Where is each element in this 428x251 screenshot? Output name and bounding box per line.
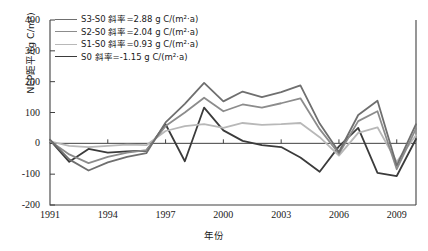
y-tick-label-text: 0	[8, 138, 40, 148]
x-tick-label: 1997	[156, 210, 176, 220]
legend-line-swatch	[55, 44, 77, 45]
y-tick-label: 300	[8, 46, 40, 56]
y-tick-label: -200	[8, 200, 40, 210]
y-tick-label: 200	[8, 77, 40, 87]
y-tick-label: 100	[8, 108, 40, 118]
x-axis-title: 年份	[0, 228, 428, 242]
y-tick-label-text: 400	[8, 15, 40, 25]
y-tick-label-text: 100	[8, 108, 40, 118]
y-tick-label: 400	[8, 15, 40, 25]
nep-anomaly-line-chart: NEP距平/(g C/m²) 年份 4003002001000-100-200 …	[0, 0, 428, 251]
y-tick-label: -100	[8, 169, 40, 179]
legend-item-label: S1-S0 斜率=0.93 g C/(m²·a)	[81, 38, 198, 51]
legend-item-label: S0 斜率=-1.15 g C/(m²·a)	[81, 51, 187, 64]
series-line-s0	[50, 108, 416, 176]
y-tick-label: 0	[8, 138, 40, 148]
x-axis-title-text: 年份	[204, 230, 224, 241]
x-tick-label: 1994	[98, 210, 118, 220]
y-tick-label-text: 200	[8, 77, 40, 87]
x-tick-label: 2003	[271, 210, 291, 220]
x-tick-label: 2000	[213, 210, 233, 220]
legend-item-s1-s0[interactable]: S1-S0 斜率=0.93 g C/(m²·a)	[55, 38, 198, 51]
x-tick-label: 2009	[387, 210, 407, 220]
y-tick-label-text: -200	[8, 200, 40, 210]
legend-item-label: S2-S0 斜率=2.04 g C/(m²·a)	[81, 26, 198, 39]
legend-item-s2-s0[interactable]: S2-S0 斜率=2.04 g C/(m²·a)	[55, 26, 198, 39]
x-tick-label: 1991	[40, 210, 60, 220]
legend-line-swatch	[55, 56, 77, 57]
legend-line-swatch	[55, 31, 77, 32]
legend-item-s0[interactable]: S0 斜率=-1.15 g C/(m²·a)	[55, 51, 198, 64]
series-line-s1-s0	[50, 123, 416, 162]
y-tick-label-text: 300	[8, 46, 40, 56]
y-tick-label-text: -100	[8, 169, 40, 179]
legend: S3-S0 斜率=2.88 g C/(m²·a)S2-S0 斜率=2.04 g …	[55, 13, 198, 63]
x-tick-label: 2006	[329, 210, 349, 220]
legend-line-swatch	[55, 19, 77, 20]
legend-item-label: S3-S0 斜率=2.88 g C/(m²·a)	[81, 13, 198, 26]
legend-item-s3-s0[interactable]: S3-S0 斜率=2.88 g C/(m²·a)	[55, 13, 198, 26]
